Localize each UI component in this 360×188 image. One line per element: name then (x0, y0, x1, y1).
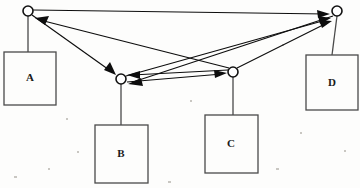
arrowhead-middle-left-to-middle-right (214, 70, 227, 78)
box-b-label: B (117, 147, 125, 159)
box-d-label: D (328, 76, 336, 88)
box-c-label: C (227, 137, 235, 149)
labeled-boxes: A B C D (4, 52, 358, 183)
box-a-label: A (26, 71, 34, 83)
diagram-svg: A B C D (0, 0, 360, 188)
node-top-left[interactable] (23, 6, 33, 16)
node-middle-left[interactable] (116, 74, 126, 84)
stem-node-d (332, 16, 337, 55)
edge-top-left-to-top-right (33, 10, 326, 14)
arrowhead-middle-right-to-top-left (35, 16, 49, 25)
node-top-right[interactable] (332, 6, 342, 16)
edge-middle-right-to-top-left (40, 20, 229, 68)
diagram-canvas: A B C D (0, 0, 360, 188)
graph-edges (32, 10, 333, 86)
arrowhead-top-left-to-middle-left (104, 62, 116, 75)
scan-speckles (14, 44, 346, 183)
arrowhead-middle-right-to-top-right (319, 20, 332, 28)
node-middle-right[interactable] (228, 67, 238, 77)
node-stems (28, 16, 337, 125)
